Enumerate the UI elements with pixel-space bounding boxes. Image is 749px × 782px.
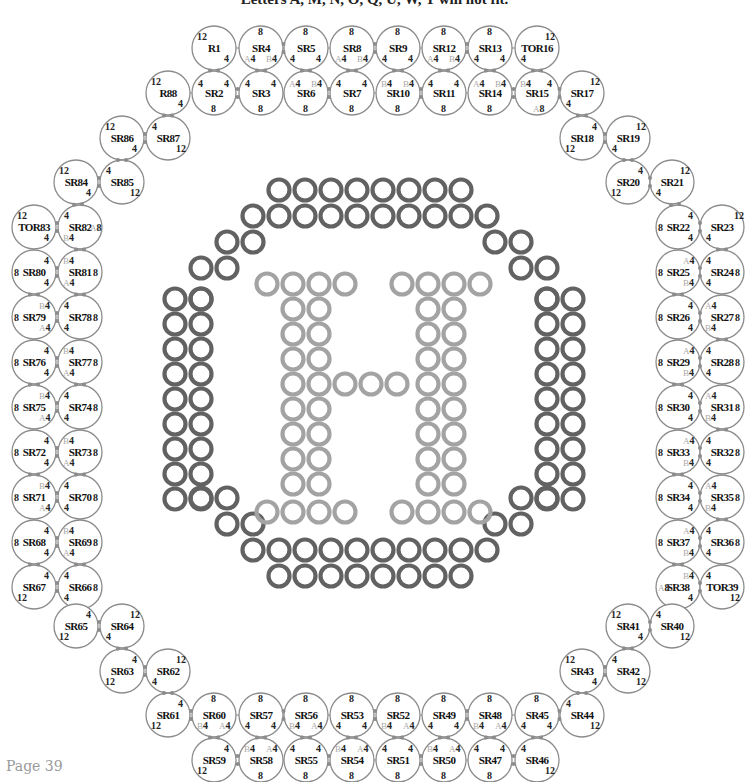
node-sr49[interactable]: SR49844 xyxy=(422,693,466,737)
node-sr75[interactable]: SR758B4A4 xyxy=(12,385,56,429)
node-sr52[interactable]: SR528B4A4 xyxy=(376,693,420,737)
node-sr24[interactable]: SR24484 xyxy=(700,250,744,294)
node-sr37[interactable]: SR378A4B4 xyxy=(656,520,700,564)
node-sr78[interactable]: SR78484 xyxy=(58,295,102,339)
node-sr38[interactable]: SR38A8B44 xyxy=(656,565,700,609)
node-sr67[interactable]: SR67412 xyxy=(12,565,56,609)
node-sr85[interactable]: SR85412 xyxy=(100,160,144,204)
port-label: B4 xyxy=(683,367,694,378)
node-r88[interactable]: R88124 xyxy=(146,71,190,115)
node-sr31[interactable]: SR31A48B4 xyxy=(700,385,744,429)
node-sr17[interactable]: SR17124 xyxy=(560,71,604,115)
node-sr59[interactable]: SR59412 xyxy=(192,738,236,782)
node-sr63[interactable]: SR63412 xyxy=(100,649,144,693)
node-sr77[interactable]: SR77B48A4 xyxy=(58,340,102,384)
node-sr60[interactable]: SR608B4A4 xyxy=(192,693,236,737)
arrow-marker-icon xyxy=(648,628,652,632)
node-sr79[interactable]: SR798B4A4 xyxy=(12,295,56,339)
node-sr87[interactable]: SR87412 xyxy=(146,116,190,160)
node-sr5[interactable]: SR5844 xyxy=(284,26,328,70)
node-sr69[interactable]: SR69B48A4 xyxy=(58,520,102,564)
node-sr76[interactable]: SR76844 xyxy=(12,340,56,384)
node-sr30[interactable]: SR30844 xyxy=(656,385,700,429)
node-sr62[interactable]: SR62124 xyxy=(146,649,190,693)
node-sr82[interactable]: SR824A8B4 xyxy=(58,205,102,249)
node-sr56[interactable]: SR568B4A4 xyxy=(284,693,328,737)
node-sr42[interactable]: SR42412 xyxy=(606,649,650,693)
node-sr44[interactable]: SR44412 xyxy=(560,693,604,737)
arrow-marker-icon xyxy=(28,293,32,297)
port-label: 8 xyxy=(441,693,446,704)
ring-bead xyxy=(165,364,186,385)
node-sr68[interactable]: SR68844 xyxy=(12,520,56,564)
node-sr18[interactable]: SR18412 xyxy=(560,116,604,160)
node-sr32[interactable]: SR32484 xyxy=(700,430,744,474)
node-sr13[interactable]: SR13844 xyxy=(468,26,512,70)
node-sr33[interactable]: SR338A4B4 xyxy=(656,430,700,474)
node-sr7[interactable]: SR7448 xyxy=(330,71,374,115)
node-sr11[interactable]: SR11448 xyxy=(422,71,466,115)
node-sr4[interactable]: SR48A4B4 xyxy=(239,26,283,70)
node-sr2[interactable]: SR2448 xyxy=(192,71,236,115)
node-sr54[interactable]: SR54B4A48 xyxy=(330,738,374,782)
node-sr27[interactable]: SR27A48B4 xyxy=(700,295,744,339)
node-sr64[interactable]: SR64124 xyxy=(100,604,144,648)
port-label: 8 xyxy=(735,312,740,323)
node-sr10[interactable]: SR10B4B48 xyxy=(376,71,420,115)
node-sr20[interactable]: SR20412 xyxy=(606,160,650,204)
port-label: A8 xyxy=(533,103,545,114)
node-sr9[interactable]: SR9844 xyxy=(376,26,420,70)
node-sr70[interactable]: SR70484 xyxy=(58,475,102,519)
port-label: 4 xyxy=(706,367,711,378)
node-sr47[interactable]: SR47448 xyxy=(468,738,512,782)
node-sr23[interactable]: SR23124 xyxy=(700,205,744,249)
node-sr43[interactable]: SR43124 xyxy=(560,649,604,693)
node-sr73[interactable]: SR73B48A4 xyxy=(58,430,102,474)
node-sr86[interactable]: SR86124 xyxy=(100,116,144,160)
node-sr81[interactable]: SR81B48A4 xyxy=(58,250,102,294)
node-sr28[interactable]: SR28484 xyxy=(700,340,744,384)
node-tor16[interactable]: TOR16124 xyxy=(515,26,559,70)
node-sr34[interactable]: SR34844 xyxy=(656,475,700,519)
node-sr55[interactable]: SR55448 xyxy=(284,738,328,782)
node-sr65[interactable]: SR65412 xyxy=(54,604,98,648)
node-sr40[interactable]: SR40412 xyxy=(650,604,694,648)
node-sr8[interactable]: SR88A4B4 xyxy=(330,26,374,70)
node-tor83[interactable]: TOR83124 xyxy=(12,205,56,249)
node-sr48[interactable]: SR488B4A4 xyxy=(468,693,512,737)
node-sr6[interactable]: SR6A4B48 xyxy=(284,71,328,115)
node-sr15[interactable]: SR15B44A8 xyxy=(515,71,559,115)
node-sr3[interactable]: SR3448 xyxy=(239,71,283,115)
node-sr25[interactable]: SR258A4B4 xyxy=(656,250,700,294)
node-sr80[interactable]: SR80844 xyxy=(12,250,56,294)
node-sr72[interactable]: SR72844 xyxy=(12,430,56,474)
node-sr84[interactable]: SR84124 xyxy=(54,160,98,204)
node-sr19[interactable]: SR19124 xyxy=(606,116,650,160)
port-label: 4 xyxy=(688,210,693,221)
node-sr51[interactable]: SR51448 xyxy=(376,738,420,782)
node-sr58[interactable]: SR58B4A48 xyxy=(239,738,283,782)
node-sr36[interactable]: SR36484 xyxy=(700,520,744,564)
node-sr22[interactable]: SR22844 xyxy=(656,205,700,249)
node-r1[interactable]: R1124 xyxy=(192,26,236,70)
node-sr45[interactable]: SR45844 xyxy=(515,693,559,737)
node-sr71[interactable]: SR718B4A4 xyxy=(12,475,56,519)
node-sr29[interactable]: SR298A4B4 xyxy=(656,340,700,384)
node-sr74[interactable]: SR74484 xyxy=(58,385,102,429)
node-sr35[interactable]: SR35A48B4 xyxy=(700,475,744,519)
node-sr57[interactable]: SR57844 xyxy=(239,693,283,737)
node-sr12[interactable]: SR128A4B4 xyxy=(422,26,466,70)
node-sr61[interactable]: SR61412 xyxy=(146,693,190,737)
node-sr46[interactable]: SR46412 xyxy=(515,738,559,782)
node-sr66[interactable]: SR66484 xyxy=(58,565,102,609)
node-sr53[interactable]: SR53844 xyxy=(330,693,374,737)
port-label: A8 xyxy=(658,582,670,593)
node-sr14[interactable]: SR14A4B48 xyxy=(468,71,512,115)
node-sr21[interactable]: SR21124 xyxy=(650,160,694,204)
node-sr41[interactable]: SR41124 xyxy=(606,604,650,648)
node-tor39[interactable]: TOR39412 xyxy=(700,565,744,609)
port-label: 4 xyxy=(44,345,49,356)
port-label: A4 xyxy=(39,412,51,423)
node-sr50[interactable]: SR50B4A48 xyxy=(422,738,466,782)
node-sr26[interactable]: SR26844 xyxy=(656,295,700,339)
